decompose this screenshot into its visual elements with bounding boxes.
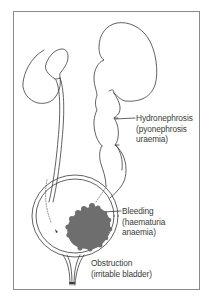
label-line: (pyonephrosis	[136, 124, 193, 135]
label-line: (irritable bladder)	[91, 269, 152, 280]
label-line: anaemia)	[122, 227, 165, 238]
label-obstruction: Obstruction (irritable bladder)	[91, 258, 152, 279]
label-line: uraemia)	[136, 134, 193, 145]
left-kidney	[23, 49, 68, 103]
label-hydronephrosis: Hydronephrosis (pyonephrosis uraemia)	[136, 113, 193, 145]
bladder-tumour	[65, 203, 112, 252]
label-line: Hydronephrosis	[136, 113, 193, 124]
label-line: (haematuria	[122, 217, 165, 228]
urinary-tract-diagram	[0, 0, 209, 300]
arrow-marker	[55, 229, 58, 233]
right-ureter-dilated	[110, 93, 126, 198]
label-line: Obstruction	[91, 258, 152, 269]
label-bleeding: Bleeding (haematuria anaemia)	[122, 206, 165, 238]
label-line: Bleeding	[122, 206, 165, 217]
